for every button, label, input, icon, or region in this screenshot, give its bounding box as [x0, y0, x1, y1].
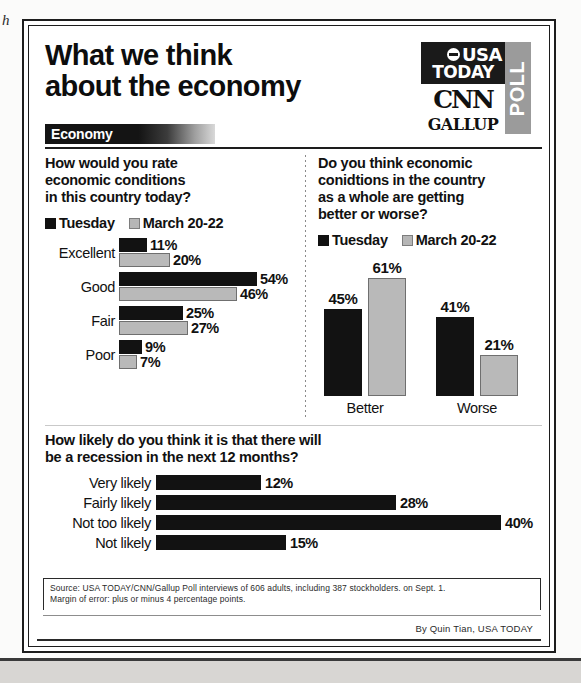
bar-group: Not likely15% [43, 535, 537, 551]
usatoday-cnn-gallup-poll-logo: USA TODAY CNN GALLUP POLL [421, 42, 533, 134]
bar-row: 54% [119, 272, 305, 286]
globe-icon [447, 48, 460, 61]
chart-recession-likelihood: How likely do you think it is that there… [43, 425, 537, 551]
bar-pair: 25%27% [119, 306, 305, 335]
bar-group: 45%61% [324, 254, 406, 396]
right-question-line-1: Do you think economic [318, 155, 537, 172]
page-title-line-2: about the economy [45, 71, 395, 102]
bar-value-label: 11% [150, 237, 177, 253]
legend-item-tuesday: Tuesday [45, 215, 115, 231]
bar-pair: 11%20% [119, 238, 305, 267]
bar-group: Excellent11%20% [43, 238, 305, 267]
bar-tuesday [119, 340, 142, 354]
legend-item-march: March 20-22 [129, 215, 224, 231]
poll-logo-sidebar: POLL [505, 42, 531, 134]
usa-today-top-line: USA [424, 46, 502, 64]
bar-category-label: Good [43, 279, 119, 295]
left-chart-question: How would you rate economic conditions i… [45, 155, 305, 206]
stray-scan-character: h [2, 12, 10, 29]
bar-march-20-22 [119, 253, 170, 267]
bar-group: Fairly likely28% [43, 495, 537, 511]
bar-march-20-22 [119, 355, 137, 369]
legend-label-tuesday: Tuesday [59, 215, 115, 231]
right-bar-category-labels: BetterWorse [316, 400, 537, 416]
bar-row: 27% [119, 321, 305, 335]
byline: By Quin Tian, USA TODAY [415, 623, 533, 634]
legend-item-march-right: March 20-22 [402, 232, 497, 248]
bar-group: Poor9%7% [43, 340, 305, 369]
bottom-question-line-1: How likely do you think it is that there… [45, 432, 537, 449]
bar-value-label: 28% [400, 495, 428, 511]
bar-category-label: Very likely [43, 475, 156, 491]
poll-logo-text: POLL [507, 60, 530, 115]
legend-swatch-march-icon [402, 235, 413, 246]
bar-category-label: Not likely [43, 535, 156, 551]
bottom-question-line-2: be a recession in the next 12 months? [45, 449, 537, 466]
bar-value-label: 9% [145, 339, 165, 355]
legend-swatch-tuesday-icon [45, 218, 56, 229]
source-note-line-1: Source: USA TODAY/CNN/Gallup Poll interv… [50, 583, 534, 594]
bar-category-label: Fairly likely [43, 495, 156, 511]
left-chart-legend: Tuesday March 20-22 [45, 215, 305, 231]
bar-pair: 54%46% [119, 272, 305, 301]
bar-march-20-22 [368, 278, 406, 396]
logo-main-block: USA TODAY CNN GALLUP [421, 42, 505, 134]
graphic-inner-frame: What we think about the economy USA TODA… [28, 25, 550, 647]
bar-recession-likelihood [156, 515, 501, 530]
bar-holder: 61% [368, 254, 406, 396]
byline-rule [37, 639, 541, 641]
bar-tuesday [119, 306, 183, 320]
bar-tuesday [119, 238, 147, 252]
chart-economy-better-or-worse: Do you think economic conidtions in the … [316, 155, 537, 417]
gallup-logo-text: GALLUP [421, 115, 505, 134]
bar-value-label: 25% [186, 305, 214, 321]
usa-logo-text: USA [462, 46, 502, 64]
page-title-line-1: What we think [45, 39, 232, 71]
bar-tuesday [324, 309, 362, 396]
bar-category-label: Excellent [43, 245, 119, 261]
bar-category-label: Poor [43, 347, 119, 363]
bottom-bar-chart-plot: Very likely12%Fairly likely28%Not too li… [43, 475, 537, 551]
bar-row: 46% [119, 287, 305, 301]
bar-value-label: 20% [173, 252, 201, 268]
section-banner-label: Economy [45, 124, 113, 144]
bar-value-label: 41% [441, 298, 470, 315]
bar-recession-likelihood [156, 535, 286, 550]
bar-value-label: 15% [290, 535, 318, 551]
left-question-line-2: economic conditions [45, 172, 305, 189]
bar-recession-likelihood [156, 495, 396, 510]
bottom-section-divider [45, 425, 542, 426]
bar-category-label: Better [324, 400, 406, 416]
bar-category-label: Worse [436, 400, 518, 416]
legend-label-march: March 20-22 [143, 215, 224, 231]
right-bar-plot-area: 45%61%41%21% [316, 254, 537, 396]
bar-group: Fair25%27% [43, 306, 305, 335]
usa-today-logo: USA TODAY [421, 42, 505, 84]
left-bar-chart-plot: Excellent11%20%Good54%46%Fair25%27%Poor9… [43, 238, 305, 369]
source-note-underline [43, 615, 541, 616]
right-chart-question: Do you think economic conidtions in the … [318, 155, 537, 223]
right-question-line-4: better or worse? [318, 206, 537, 223]
legend-item-tuesday-right: Tuesday [318, 232, 388, 248]
banner-divider-rule [45, 147, 542, 149]
top-charts-row: How would you rate economic conditions i… [43, 155, 537, 417]
legend-label-march: March 20-22 [416, 232, 497, 248]
bar-row: 7% [119, 355, 305, 369]
legend-swatch-tuesday-icon [318, 235, 329, 246]
bar-march-20-22 [480, 355, 518, 396]
bar-march-20-22 [119, 287, 237, 301]
bar-row: 9% [119, 340, 305, 354]
bar-holder: 41% [436, 254, 474, 396]
chart-economic-conditions-rating: How would you rate economic conditions i… [43, 155, 305, 417]
bar-recession-likelihood [156, 475, 261, 490]
bar-group: Very likely12% [43, 475, 537, 491]
right-question-line-3: as a whole are getting [318, 189, 537, 206]
bar-group: 41%21% [436, 254, 518, 396]
bar-value-label: 21% [485, 336, 514, 353]
source-note-line-2: Margin of error: plus or minus 4 percent… [50, 594, 534, 605]
header-row: What we think about the economy USA TODA… [43, 40, 537, 122]
right-chart-legend: Tuesday March 20-22 [318, 232, 537, 248]
bar-value-label: 27% [191, 320, 219, 336]
bar-pair: 9%7% [119, 340, 305, 369]
bar-group: Good54%46% [43, 272, 305, 301]
